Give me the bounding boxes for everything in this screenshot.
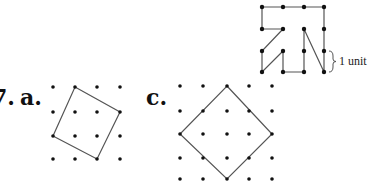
part-a-square [53,87,120,159]
part-c-diamond [180,86,272,179]
part-c-dots [178,84,274,181]
part-c-label: c. [146,84,167,110]
part-a-dots [51,85,122,161]
part-a-label: a. [20,84,42,110]
top-path-figure [262,7,324,72]
dot-grid-figures [0,0,375,185]
unit-annotation: 1 unit [339,54,367,69]
problem-number: 7. [0,84,15,110]
unit-brace [329,51,336,72]
